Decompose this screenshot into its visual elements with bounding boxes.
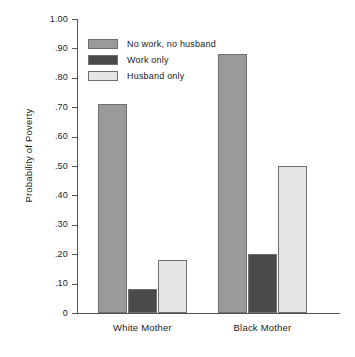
- legend-item-label: Husband only: [127, 71, 184, 81]
- bar: [218, 54, 247, 313]
- y-axis-tick-label: .20: [55, 250, 68, 259]
- x-axis-group-label: White Mother: [83, 322, 203, 333]
- bar: [158, 260, 187, 313]
- y-axis-tick-label: .50: [55, 162, 68, 171]
- y-axis-tick-label: .60: [55, 132, 68, 141]
- chart-legend: No work, no husbandWork onlyHusband only: [88, 36, 216, 84]
- y-axis-title: Probability of Poverty: [23, 81, 34, 231]
- legend-item-label: No work, no husband: [127, 39, 216, 49]
- y-axis-tick-label: .80: [55, 73, 68, 82]
- y-axis-tick-label: .40: [55, 191, 68, 200]
- y-axis-tick-label: 1.00: [50, 15, 68, 24]
- y-axis-tick-label: .30: [55, 220, 68, 229]
- bar: [278, 166, 307, 313]
- legend-item: Husband only: [88, 68, 216, 83]
- legend-item-label: Work only: [127, 55, 169, 65]
- legend-swatch-icon: [88, 39, 118, 49]
- legend-item: Work only: [88, 52, 216, 67]
- bar: [248, 254, 277, 313]
- legend-swatch-icon: [88, 71, 118, 81]
- bar: [128, 289, 157, 313]
- x-axis-group-label: Black Mother: [203, 322, 323, 333]
- x-axis-line: [77, 313, 340, 314]
- bar: [98, 104, 127, 313]
- legend-swatch-icon: [88, 55, 118, 65]
- legend-item: No work, no husband: [88, 36, 216, 51]
- y-axis-tick-label: .70: [55, 103, 68, 112]
- y-axis-tick-label: .90: [55, 44, 68, 53]
- y-axis-tick: [72, 313, 78, 314]
- y-axis-tick-label: 0: [63, 309, 68, 318]
- poverty-probability-bar-chart: Probability of Poverty 0.10.20.30.40.50.…: [0, 0, 355, 357]
- y-axis-tick-label: .10: [55, 279, 68, 288]
